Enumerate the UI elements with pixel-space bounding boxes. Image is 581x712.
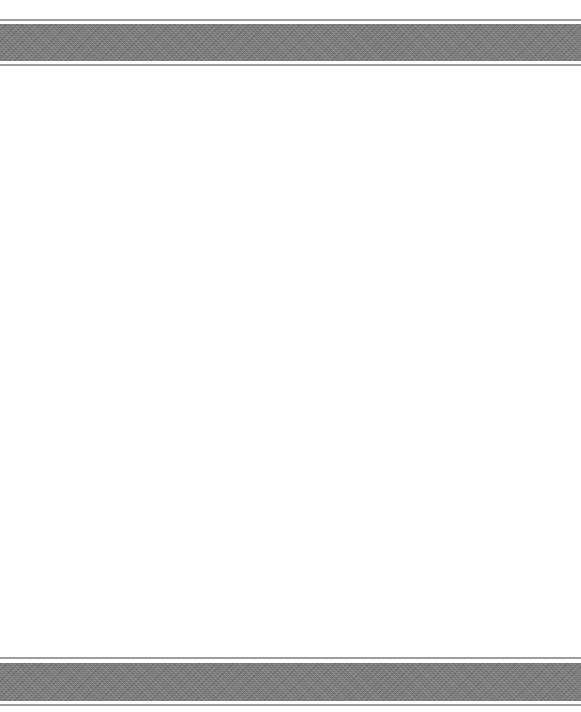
header-top-rule [0, 19, 581, 21]
document-page [0, 0, 581, 712]
footer-band [0, 663, 581, 701]
page-body [0, 68, 581, 656]
header-bottom-rule [0, 64, 581, 66]
footer-top-rule [0, 657, 581, 659]
footer-bottom-rule [0, 704, 581, 706]
header-band [0, 24, 581, 61]
